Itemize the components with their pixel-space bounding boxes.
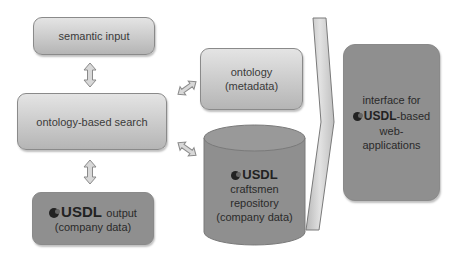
ontology-search-node: ontology-based search (17, 93, 167, 150)
usdl-logo-icon (353, 112, 362, 121)
usdl-brand: USDL (242, 167, 277, 182)
bidirectional-arrow-icon (83, 160, 97, 184)
chevron-arrow-icon (305, 17, 335, 232)
bidirectional-arrow-icon (176, 79, 198, 97)
usdl-output-sublabel: (company data) (55, 220, 131, 234)
bidirectional-arrow-icon (176, 140, 198, 158)
usdl-logo-icon (231, 171, 240, 180)
semantic-input-label: semantic input (59, 29, 130, 43)
usdl-output-node: USDL output (company data) (32, 192, 154, 245)
usdl-brand: USDL (364, 109, 397, 123)
usdl-logo-icon (49, 208, 59, 218)
usdl-output-label: output (106, 207, 137, 219)
repository-label-line1: craftsmen (230, 182, 278, 196)
bidirectional-arrow-icon (83, 63, 97, 87)
repository-label-line3: (company data) (216, 210, 292, 224)
interface-label-line3: web- (380, 124, 404, 138)
semantic-input-node: semantic input (33, 17, 155, 55)
repository-label-line2: repository (230, 196, 278, 210)
ontology-label: ontology (231, 65, 273, 79)
interface-node: interface for USDL-based web- applicatio… (343, 44, 440, 201)
interface-label-line4: applications (362, 138, 420, 152)
interface-label-suffix: -based (397, 110, 431, 122)
ontology-sublabel: (metadata) (225, 79, 278, 93)
repository-node: USDL craftsmen repository (company data) (203, 150, 306, 240)
usdl-brand: USDL (61, 203, 102, 220)
ontology-search-label: ontology-based search (36, 115, 147, 129)
interface-label-line1: interface for (362, 93, 420, 107)
ontology-node: ontology (metadata) (200, 48, 303, 110)
